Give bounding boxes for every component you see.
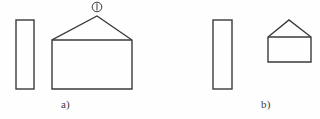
callout-marker-1-icon <box>92 2 102 12</box>
panel-b-tall-rectangle <box>213 20 232 89</box>
panel-b-house-pentagon <box>268 20 311 62</box>
panel-a-tall-rectangle <box>16 20 34 89</box>
figure-drawing-canvas <box>0 0 320 119</box>
panel-a-house-pentagon <box>52 16 132 89</box>
panel-b-label: b) <box>261 99 271 110</box>
figure-container: a) b) <box>0 0 320 119</box>
panel-a-group <box>16 2 132 89</box>
panel-a-label: a) <box>61 99 70 110</box>
panel-b-group <box>213 20 311 89</box>
